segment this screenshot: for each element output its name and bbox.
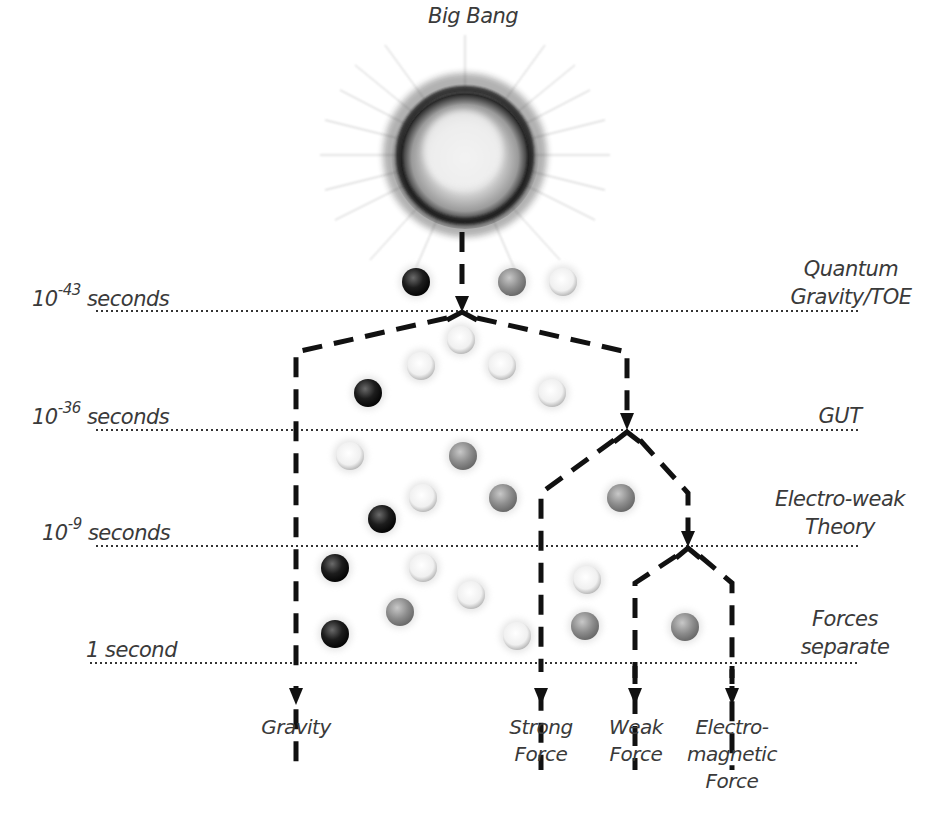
time-label-1e-9: 10-9 seconds: [42, 518, 170, 545]
particle-light-icon: [409, 484, 437, 512]
arrow-gravity-icon: [289, 688, 303, 705]
particle-light-icon: [549, 268, 577, 296]
force-strong: Strong Force: [501, 714, 581, 768]
time-base: 10: [32, 405, 58, 429]
time-exponent: -43: [58, 281, 81, 299]
time-exponent: -36: [58, 399, 81, 417]
particle-dark-icon: [368, 505, 396, 533]
era-line: Quantum: [776, 255, 926, 283]
particle-dark-icon: [321, 620, 349, 648]
time-label-1s: 1 second: [86, 638, 177, 662]
time-base: 10: [42, 521, 68, 545]
arrow-strong-icon: [534, 688, 548, 705]
time-base: 10: [32, 287, 58, 311]
era-gut: GUT: [800, 402, 880, 430]
junctions: [447, 296, 700, 558]
particle-dark-icon: [321, 554, 349, 582]
particle-mid-icon: [498, 268, 526, 296]
era-line: Electro-weak: [765, 485, 915, 513]
force-gravity: Gravity: [246, 714, 346, 741]
time-label-1e-36: 10-36 seconds: [32, 402, 169, 429]
particle-light-icon: [336, 442, 364, 470]
force-line: Strong: [501, 714, 581, 741]
force-line: magnetic: [682, 741, 782, 768]
particle-light-icon: [573, 566, 601, 594]
era-electroweak: Electro-weak Theory: [765, 485, 915, 541]
particle-light-icon: [457, 581, 485, 609]
particle-light-icon: [407, 352, 435, 380]
particle-light-icon: [503, 622, 531, 650]
era-line: separate: [790, 633, 900, 661]
arrow-weak-icon: [628, 688, 642, 705]
particle-light-icon: [538, 379, 566, 407]
particle-light-icon: [447, 326, 475, 354]
time-base: 1: [86, 638, 99, 662]
force-electromagnetic: Electro- magnetic Force: [682, 714, 782, 795]
big-bang-title: Big Bang: [428, 4, 518, 28]
era-line: Gravity/TOE: [776, 283, 926, 311]
era-forces-separate: Forces separate: [790, 605, 900, 661]
time-unit: seconds: [87, 287, 169, 311]
particle-dark-icon: [354, 379, 382, 407]
time-unit: second: [105, 638, 177, 662]
particle-mid-icon: [607, 484, 635, 512]
era-line: GUT: [800, 402, 880, 430]
particle-mid-icon: [571, 612, 599, 640]
particle-mid-icon: [386, 598, 414, 626]
force-line: Force: [682, 768, 782, 795]
force-line: Weak: [596, 714, 676, 741]
particle-light-icon: [488, 352, 516, 380]
arrow-em-icon: [725, 688, 739, 705]
particle-mid-icon: [671, 613, 699, 641]
particle-light-icon: [409, 554, 437, 582]
time-exponent: -9: [68, 515, 82, 533]
time-unit: seconds: [87, 405, 169, 429]
era-line: Forces: [790, 605, 900, 633]
particle-mid-icon: [449, 442, 477, 470]
big-bang-icon: [320, 35, 610, 270]
era-line: Theory: [765, 513, 915, 541]
particle-mid-icon: [489, 484, 517, 512]
force-weak: Weak Force: [596, 714, 676, 768]
force-line: Gravity: [246, 714, 346, 741]
diagram-canvas: Big Bang 10-43 seconds 10-36 seconds 10-…: [0, 0, 948, 831]
force-line: Force: [501, 741, 581, 768]
force-line: Force: [596, 741, 676, 768]
arrowheads: [289, 688, 739, 705]
time-unit: seconds: [88, 521, 170, 545]
era-quantum-gravity: Quantum Gravity/TOE: [776, 255, 926, 311]
time-label-1e-43: 10-43 seconds: [32, 284, 169, 311]
force-line: Electro-: [682, 714, 782, 741]
particle-dark-icon: [402, 268, 430, 296]
